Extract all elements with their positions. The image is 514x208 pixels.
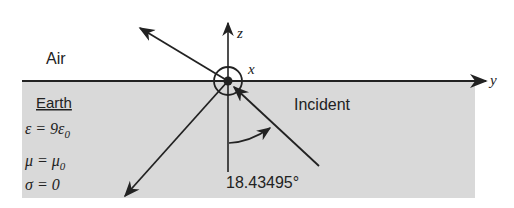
earth-label: Earth: [36, 94, 72, 111]
reflected-ray: [140, 28, 228, 81]
wave-incidence-diagram: Air Earth ε = 9ε0 μ = μ0 σ = 0 z x y Inc…: [0, 0, 514, 208]
x-axis-label: x: [247, 61, 255, 77]
incident-label: Incident: [294, 96, 351, 113]
y-axis-label: y: [488, 72, 497, 88]
angle-value-label: 18.43495°: [226, 174, 299, 191]
x-axis-dot-icon: [224, 77, 233, 86]
sigma-param: σ = 0: [25, 176, 60, 193]
z-axis-label: z: [236, 25, 243, 41]
air-label: Air: [46, 50, 66, 67]
